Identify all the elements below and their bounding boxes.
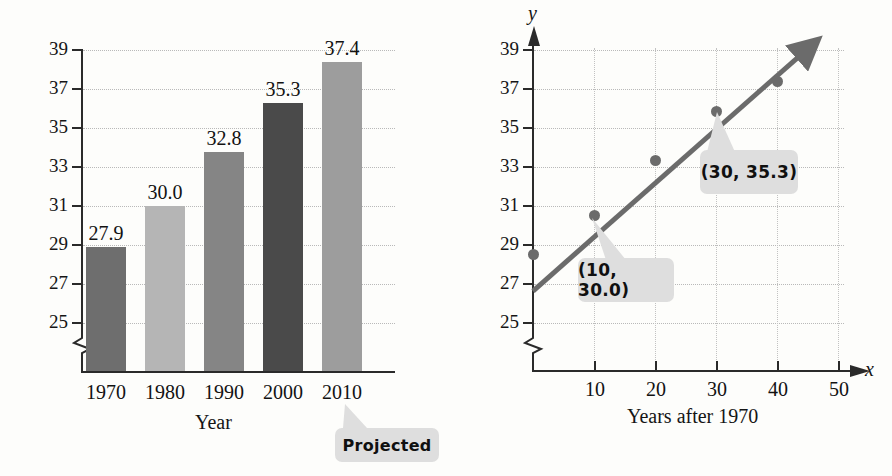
line-ytick-label-27: 27 (483, 272, 519, 294)
bar-value-label-1980: 30.0 (135, 181, 195, 204)
line-ytick-mark-31 (523, 205, 534, 207)
bar-2010 (322, 62, 362, 371)
line-gridline-x40 (777, 48, 778, 370)
callout-10-30-label: (10, 30.0) (578, 260, 674, 300)
ytick-mark-33 (72, 166, 83, 168)
line-xtick-label-40: 40 (748, 378, 808, 401)
xtick-label-2000: 2000 (253, 381, 313, 404)
data-point-40-37-4 (772, 76, 783, 87)
line-ytick-mark-35 (523, 127, 534, 129)
xtick-label-2010: 2010 (312, 381, 372, 404)
callout-10-30-tail-icon (592, 216, 628, 262)
bar-2000 (263, 103, 303, 371)
line-xtick-label-30: 30 (687, 378, 747, 401)
callout-30-35-tail-icon (701, 112, 737, 154)
xtick-label-1970: 1970 (76, 381, 136, 404)
line-ytick-label-35: 35 (483, 116, 519, 138)
line-gridline-x50 (838, 48, 839, 370)
line-ytick-mark-29 (523, 244, 534, 246)
line-gridline-x20 (655, 48, 656, 370)
line-y-axis-break-icon (523, 333, 545, 357)
line-xtick-label-50: 50 (809, 378, 869, 401)
line-ytick-label-25: 25 (483, 311, 519, 333)
line-ytick-label-29: 29 (483, 233, 519, 255)
bar-value-label-2010: 37.4 (312, 37, 372, 60)
line-gridline-29 (534, 245, 844, 246)
line-xtick-mark-10 (594, 361, 596, 372)
line-chart-y-axis-arrow-icon (525, 26, 543, 46)
ytick-label-31: 31 (32, 194, 68, 216)
line-xtick-mark-40 (777, 361, 779, 372)
ytick-label-39: 39 (32, 38, 68, 60)
line-gridline-37 (534, 89, 844, 90)
bar-value-label-1990: 32.8 (194, 127, 254, 150)
figure-root: Median Age 39 37 35 33 31 29 27 (0, 0, 892, 476)
bar-chart-y-axis-lower (81, 355, 83, 372)
bar-chart-y-axis-upper (81, 50, 83, 335)
line-ytick-mark-25 (523, 322, 534, 324)
y-axis-variable-name: y (528, 2, 537, 25)
line-ytick-label-33: 33 (483, 155, 519, 177)
xtick-label-1990: 1990 (194, 381, 254, 404)
ytick-label-37: 37 (32, 77, 68, 99)
line-ytick-label-39: 39 (483, 38, 519, 60)
data-point-20-32-8 (650, 155, 661, 166)
line-gridline-x30 (716, 48, 717, 370)
callout-30-35-label: (30, 35.3) (701, 162, 798, 182)
ytick-mark-27 (72, 283, 83, 285)
bar-1990 (204, 152, 244, 371)
line-chart-panel: y x Median Age (446, 0, 892, 476)
projected-callout-tail-icon (341, 404, 371, 430)
line-gridline-31 (534, 206, 844, 207)
ytick-label-35: 35 (32, 116, 68, 138)
ytick-mark-39 (72, 49, 83, 51)
bar-chart-x-axis-label: Year (195, 411, 232, 434)
line-xtick-mark-50 (838, 361, 840, 372)
line-xtick-mark-20 (655, 361, 657, 372)
projected-callout-label: Projected (342, 436, 431, 455)
ytick-mark-35 (72, 127, 83, 129)
ytick-label-33: 33 (32, 155, 68, 177)
bar-1970 (86, 247, 126, 371)
line-ytick-mark-37 (523, 88, 534, 90)
line-gridline-x10 (594, 48, 595, 370)
line-xtick-label-20: 20 (626, 378, 686, 401)
line-chart-x-axis-label: Years after 1970 (627, 405, 758, 428)
ytick-mark-37 (72, 88, 83, 90)
ytick-mark-25 (72, 322, 83, 324)
bar-value-label-2000: 35.3 (253, 78, 313, 101)
xtick-label-1980: 1980 (135, 381, 195, 404)
ytick-label-29: 29 (32, 233, 68, 255)
ytick-label-25: 25 (32, 311, 68, 333)
bar-chart-panel: Median Age 39 37 35 33 31 29 27 (0, 0, 446, 476)
line-xtick-mark-30 (716, 361, 718, 372)
line-gridline-39 (534, 50, 844, 51)
line-gridline-25 (534, 323, 844, 324)
data-point-0-27-9 (528, 249, 539, 260)
line-ytick-label-37: 37 (483, 77, 519, 99)
callout-30-35: (30, 35.3) (700, 150, 798, 194)
line-ytick-mark-33 (523, 166, 534, 168)
line-ytick-mark-27 (523, 283, 534, 285)
bar-1980 (145, 206, 185, 371)
callout-10-30: (10, 30.0) (578, 258, 674, 302)
line-ytick-mark-39 (523, 49, 534, 51)
bar-chart-x-axis (81, 371, 395, 373)
line-ytick-label-31: 31 (483, 194, 519, 216)
bar-value-label-1970: 27.9 (76, 222, 136, 245)
projected-callout: Projected (335, 428, 439, 462)
line-xtick-label-10: 10 (565, 378, 625, 401)
line-gridline-35 (534, 128, 844, 129)
line-chart-x-axis (532, 370, 852, 372)
ytick-mark-31 (72, 205, 83, 207)
ytick-label-27: 27 (32, 272, 68, 294)
